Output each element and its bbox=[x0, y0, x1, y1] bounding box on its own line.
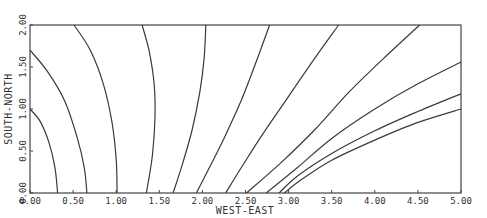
y-tick-label: 2.00 bbox=[18, 14, 28, 36]
contour-line-9 bbox=[266, 62, 461, 193]
x-tick-label: 1.00 bbox=[105, 196, 127, 206]
contour-line-6 bbox=[196, 25, 269, 193]
x-tick-label: 2.00 bbox=[192, 196, 214, 206]
contour-line-4 bbox=[142, 25, 155, 193]
x-tick-label: 4.50 bbox=[407, 196, 429, 206]
y-tick-label: 1.50 bbox=[18, 56, 28, 78]
contour-line-2 bbox=[30, 50, 87, 193]
contour-line-1 bbox=[30, 109, 58, 193]
y-tick-label: 1.00 bbox=[18, 98, 28, 120]
y-tick-label: 0.50 bbox=[18, 140, 28, 162]
x-tick-label: 1.50 bbox=[148, 196, 170, 206]
x-tick-label: 3.50 bbox=[321, 196, 343, 206]
contour-line-8 bbox=[246, 25, 419, 193]
plot-frame bbox=[30, 25, 461, 193]
y-tick-label: 0.00 bbox=[18, 182, 28, 204]
y-axis-title: SOUTH-NORTH bbox=[3, 73, 14, 145]
contour-line-11 bbox=[284, 109, 461, 193]
contour-chart: 0.000.501.001.502.002.503.003.504.004.50… bbox=[0, 0, 487, 218]
x-tick-label: 5.00 bbox=[450, 196, 472, 206]
contour-line-10 bbox=[279, 94, 461, 193]
x-axis-title: WEST-EAST bbox=[216, 205, 275, 216]
contour-line-5 bbox=[173, 25, 206, 193]
contour-line-3 bbox=[74, 25, 117, 193]
y-axis-ticks: 0.000.501.001.502.00 bbox=[18, 14, 33, 204]
x-tick-label: 0.50 bbox=[62, 196, 84, 206]
contour-line-7 bbox=[226, 25, 339, 193]
contour-lines bbox=[30, 25, 461, 193]
x-tick-label: 3.00 bbox=[278, 196, 300, 206]
x-tick-label: 4.00 bbox=[364, 196, 386, 206]
